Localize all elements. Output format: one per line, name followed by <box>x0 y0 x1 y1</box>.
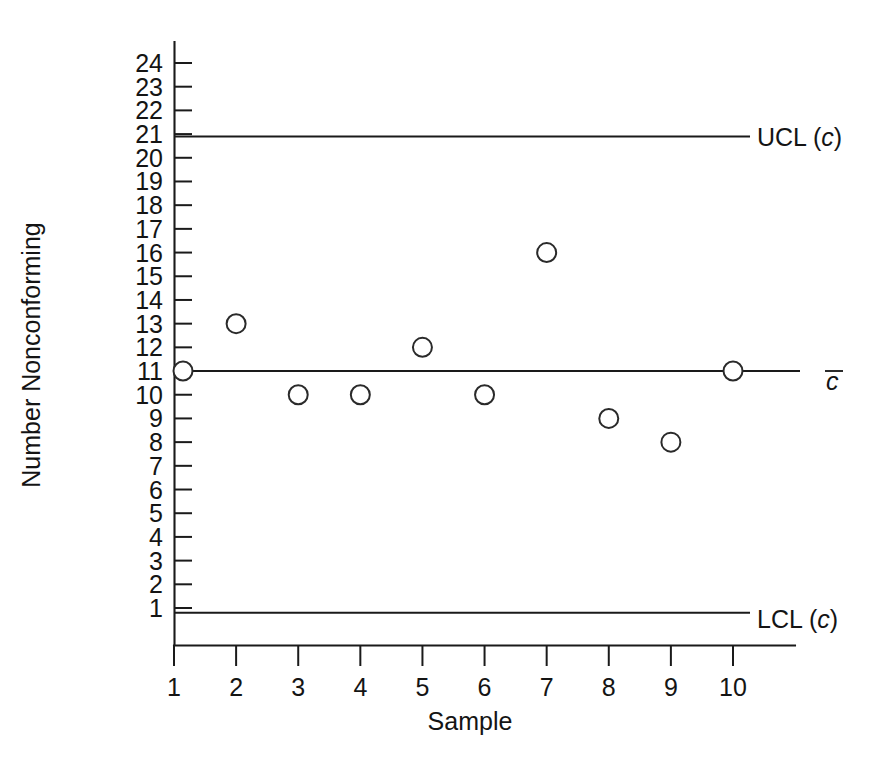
x-tick-label-4: 4 <box>353 673 367 701</box>
ucl-label: UCL (c) <box>757 123 842 151</box>
ucl-label-suffix: ) <box>834 123 842 151</box>
data-point <box>599 409 618 428</box>
x-tick-label-10: 10 <box>719 673 747 701</box>
lcl-label-suffix: ) <box>830 605 838 633</box>
x-tick-label-9: 9 <box>664 673 678 701</box>
data-point <box>289 385 308 404</box>
y-axis-tick-labels: 123456789101112131415161718192021222324 <box>135 49 163 622</box>
data-point <box>661 433 680 452</box>
data-point <box>537 243 556 262</box>
data-point <box>174 362 193 381</box>
y-axis-title: Number Nonconforming <box>17 222 45 487</box>
x-tick-label-5: 5 <box>415 673 429 701</box>
lcl-label-prefix: LCL ( <box>757 605 818 633</box>
x-tick-label-1: 1 <box>167 673 181 701</box>
lcl-label-italic-c: c <box>817 605 830 633</box>
c-chart-plot: 123456789101112131415161718192021222324 … <box>0 0 878 769</box>
data-point <box>475 385 494 404</box>
plot-axes <box>174 42 795 646</box>
control-chart-figure: 123456789101112131415161718192021222324 … <box>0 0 878 769</box>
x-axis-title: Sample <box>428 707 513 735</box>
control-limit-lines <box>175 136 800 612</box>
lcl-label: LCL (c) <box>757 605 838 633</box>
x-axis-ticks <box>174 646 733 666</box>
data-point <box>413 338 432 357</box>
x-tick-label-2: 2 <box>229 673 243 701</box>
center-line-label-group: c <box>825 367 843 395</box>
x-tick-label-6: 6 <box>478 673 492 701</box>
x-tick-label-7: 7 <box>540 673 554 701</box>
x-tick-label-8: 8 <box>602 673 616 701</box>
y-axis-ticks <box>175 63 192 608</box>
x-tick-label-3: 3 <box>291 673 305 701</box>
ucl-label-prefix: UCL ( <box>757 123 822 151</box>
x-axis-tick-labels: 12345678910 <box>167 673 747 701</box>
ucl-label-italic-c: c <box>821 123 834 151</box>
data-point <box>724 362 743 381</box>
data-point <box>351 385 370 404</box>
data-point-markers <box>174 243 743 452</box>
data-point <box>227 314 246 333</box>
y-tick-label-24: 24 <box>135 49 163 77</box>
